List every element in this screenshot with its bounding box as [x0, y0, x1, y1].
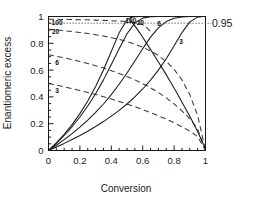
x-tick-label: 0 [46, 155, 51, 166]
curve-label-E6-solid: 6 [157, 20, 161, 27]
curve-label-E6-dashed: 6 [55, 59, 59, 66]
enantiomeric-excess-vs-conversion-chart: 00.20.40.60.8100.20.40.60.81 36201003620… [0, 0, 265, 202]
y-tick-label: 0.8 [30, 38, 43, 49]
ee-product-E20 [49, 29, 206, 150]
x-tick-label: 0.2 [73, 155, 86, 166]
chart-root: 00.20.40.60.8100.20.40.60.81 36201003620… [0, 0, 265, 202]
ee-product-E3 [49, 84, 206, 151]
x-tick-label: 0.4 [105, 155, 118, 166]
y-tick-label: 0.2 [30, 118, 43, 129]
curve-label-E100-dashed: 100 [52, 19, 63, 26]
curve-label-E100-solid: 100 [125, 17, 136, 24]
x-tick-label: 0.8 [167, 155, 180, 166]
y-tick-label: 1 [38, 11, 43, 22]
reference-line-label: 0.95 [212, 17, 233, 29]
y-axis-title: Enantiomeric excess [2, 37, 13, 129]
curve-label-E3-solid: 3 [179, 38, 183, 45]
curve-label-E20-solid: 20 [137, 19, 145, 26]
ee-descending-solid-E3 [130, 20, 205, 149]
y-tick-label: 0.6 [30, 65, 43, 76]
y-tick-label: 0 [38, 145, 43, 156]
y-tick-label: 0.4 [30, 91, 43, 102]
x-axis-title: Conversion [101, 183, 152, 194]
x-tick-label: 1 [203, 155, 208, 166]
curve-label-E3-dashed: 3 [55, 87, 59, 94]
curve-labels-group: 36201003620100 [52, 17, 184, 94]
curve-label-E20-dashed: 20 [52, 28, 60, 35]
x-tick-label: 0.6 [136, 155, 149, 166]
